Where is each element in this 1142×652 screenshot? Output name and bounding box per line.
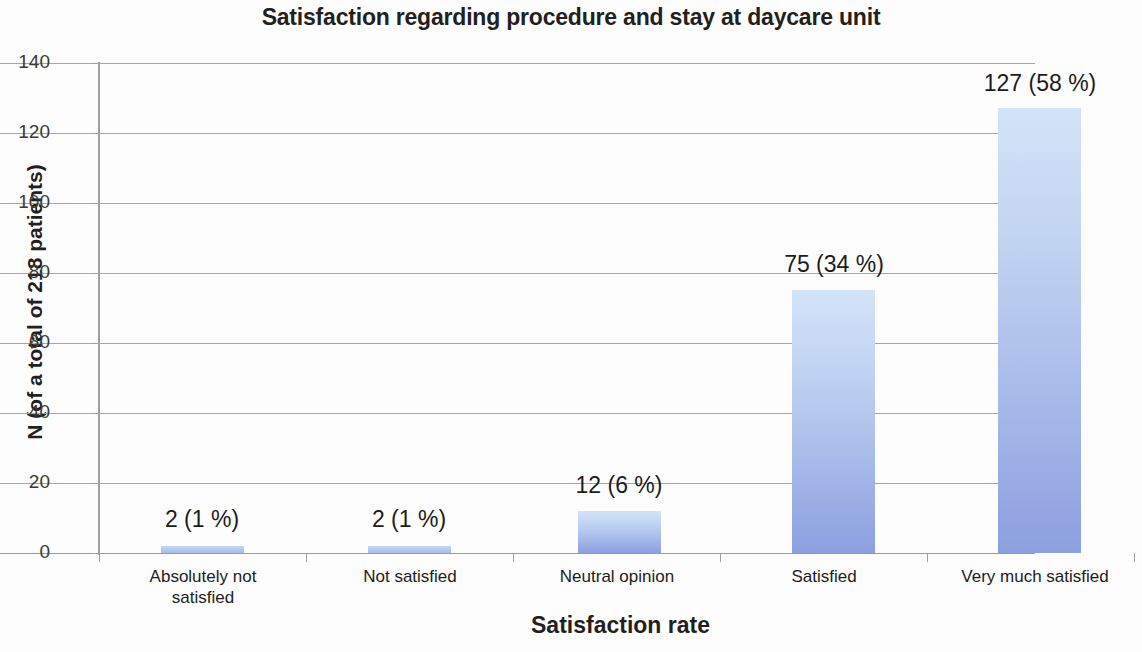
category-label-very-much-satisfied: Very much satisfied: [945, 566, 1125, 587]
x-tick-mark-2: [513, 553, 514, 562]
gridline-120: [0, 133, 1035, 134]
x-tick-mark-0: [99, 553, 100, 562]
bar-not-satisfied[interactable]: [368, 546, 451, 553]
y-tick-mark-60: [91, 343, 99, 344]
category-label-line-1: Absolutely not: [117, 566, 289, 587]
category-label-neutral-opinion: Neutral opinion: [531, 566, 703, 587]
gridline-60: [0, 343, 1035, 344]
y-tick-label-20: 20: [0, 471, 50, 493]
data-label-neutral-opinion: 12 (6 %): [549, 472, 689, 499]
category-label-absolutely-not-satisfied: Absolutely not satisfied: [117, 566, 289, 608]
category-label-line-1: Very much satisfied: [945, 566, 1125, 587]
gridline-40: [0, 413, 1035, 414]
y-tick-mark-20: [91, 483, 99, 484]
bar-satisfied[interactable]: [792, 290, 875, 553]
x-tick-mark-3: [720, 553, 721, 562]
category-label-line-2: satisfied: [117, 587, 289, 608]
y-axis-title: N (of a total of 218 patients): [23, 92, 47, 512]
y-tick-label-120: 120: [0, 121, 50, 143]
y-tick-mark-40: [91, 413, 99, 414]
x-axis-title: Satisfaction rate: [99, 612, 1142, 639]
category-label-line-1: Neutral opinion: [531, 566, 703, 587]
gridline-140: [0, 63, 1035, 64]
gridline-0: [0, 553, 1035, 554]
data-label-not-satisfied: 2 (1 %): [339, 506, 479, 533]
category-label-not-satisfied: Not satisfied: [324, 566, 496, 587]
y-tick-mark-80: [91, 273, 99, 274]
y-tick-mark-120: [91, 133, 99, 134]
y-tick-mark-100: [91, 203, 99, 204]
data-label-absolutely-not-satisfied: 2 (1 %): [132, 506, 272, 533]
x-tick-mark-4: [927, 553, 928, 562]
x-tick-mark-1: [306, 553, 307, 562]
gridline-100: [0, 203, 1035, 204]
bar-neutral-opinion[interactable]: [578, 511, 661, 553]
y-tick-mark-140: [91, 63, 99, 64]
y-tick-mark-0: [91, 553, 99, 554]
y-tick-label-0: 0: [0, 541, 50, 563]
y-tick-label-40: 40: [0, 401, 50, 423]
gridline-20: [0, 483, 1035, 484]
bar-absolutely-not-satisfied[interactable]: [161, 546, 244, 553]
y-tick-label-140: 140: [0, 51, 50, 73]
x-tick-mark-5: [1134, 553, 1135, 562]
y-tick-label-100: 100: [0, 191, 50, 213]
y-tick-label-60: 60: [0, 331, 50, 353]
category-label-line-1: Satisfied: [738, 566, 910, 587]
bar-very-much-satisfied[interactable]: [998, 108, 1081, 553]
y-axis-line: [98, 62, 100, 555]
data-label-very-much-satisfied: 127 (58 %): [955, 70, 1125, 97]
category-label-satisfied: Satisfied: [738, 566, 910, 587]
data-label-satisfied: 75 (34 %): [759, 251, 909, 278]
bar-chart: Satisfaction regarding procedure and sta…: [0, 0, 1142, 652]
y-tick-label-80: 80: [0, 261, 50, 283]
category-label-line-1: Not satisfied: [324, 566, 496, 587]
chart-title: Satisfaction regarding procedure and sta…: [0, 4, 1142, 31]
